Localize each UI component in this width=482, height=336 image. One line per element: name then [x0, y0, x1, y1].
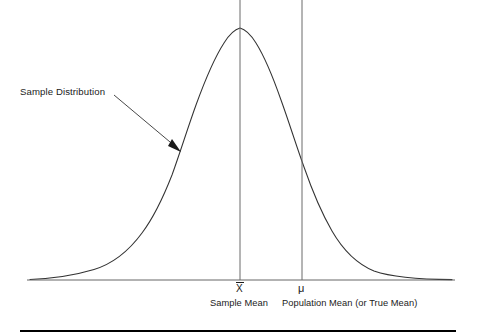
sample-mean-symbol-text: X: [236, 283, 243, 294]
statistics-figure: Sample Distribution X μ Sample MeanPopul…: [0, 0, 482, 336]
population-mean-caption: Population Mean (or True Mean): [282, 299, 417, 308]
population-mean-symbol: μ: [298, 283, 304, 294]
axis-caption-row: Sample MeanPopulation Mean (or True Mean…: [210, 299, 417, 308]
normal-distribution-curve: [30, 28, 452, 280]
sample-distribution-annotation-label: Sample Distribution: [20, 87, 105, 97]
sample-mean-symbol: X: [236, 282, 244, 294]
sample-mean-caption: Sample Mean: [210, 299, 276, 308]
callout-arrowhead-icon: [168, 139, 181, 152]
callout-arrow-line: [114, 95, 176, 147]
